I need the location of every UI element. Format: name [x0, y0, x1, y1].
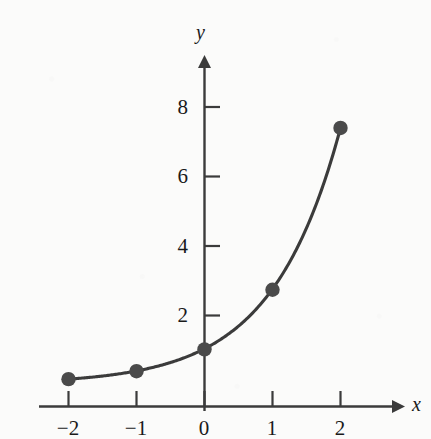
y-tick-label-2: 2 — [162, 305, 188, 326]
x-tick-label-minus-1: −1 — [116, 418, 156, 439]
exponential-graph-figure: y x 8 6 4 2 −2 −1 0 1 2 — [0, 0, 431, 439]
data-point-marker — [197, 342, 211, 356]
x-axis — [39, 400, 405, 413]
x-tick-label-2: 2 — [320, 418, 360, 439]
y-axis-arrowhead — [198, 55, 211, 68]
data-point-marker — [129, 364, 143, 378]
x-axis-arrowhead — [392, 400, 405, 413]
y-axis-label: y — [196, 22, 205, 42]
x-axis-label: x — [412, 394, 421, 414]
y-tick-label-8: 8 — [162, 97, 188, 118]
y-tick-label-4: 4 — [162, 236, 188, 257]
data-point-marker — [265, 283, 279, 297]
x-tick-label-minus-2: −2 — [48, 418, 88, 439]
y-axis — [198, 55, 211, 411]
data-point-marker — [333, 121, 347, 135]
plot-canvas — [0, 0, 431, 439]
y-tick-label-6: 6 — [162, 166, 188, 187]
x-tick-label-0: 0 — [184, 418, 224, 439]
x-tick-label-1: 1 — [252, 418, 292, 439]
y-tick-marks — [205, 107, 220, 316]
data-point-marker — [61, 372, 75, 386]
x-tick-marks — [69, 391, 341, 406]
